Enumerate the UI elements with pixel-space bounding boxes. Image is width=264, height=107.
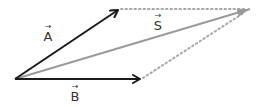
vector-addition-diagram: [0, 0, 264, 107]
label-s-text: S: [154, 18, 162, 33]
label-vector-b: → B: [68, 84, 82, 103]
label-b-text: B: [71, 89, 80, 104]
label-vector-a: → A: [41, 24, 55, 43]
vector-a: [15, 10, 118, 79]
vector-s-resultant: [15, 9, 250, 79]
label-a-text: A: [44, 29, 53, 44]
label-vector-s: → S: [151, 13, 165, 32]
